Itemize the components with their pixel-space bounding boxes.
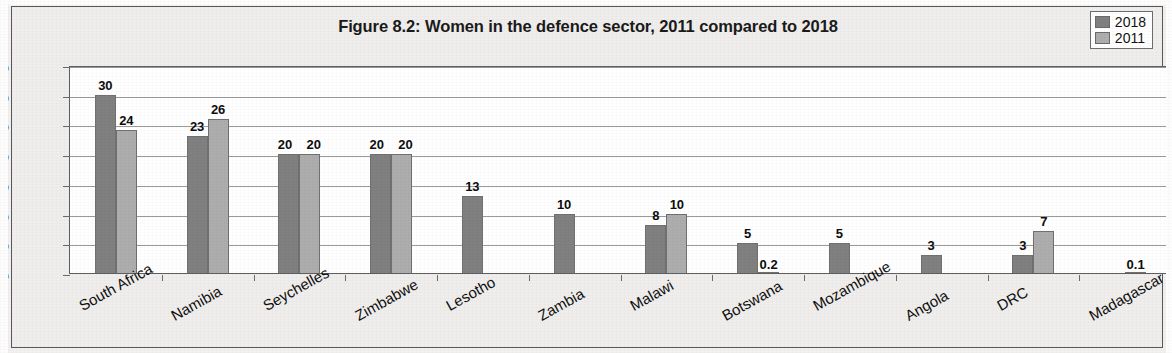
- bar-value-label: 20: [398, 138, 412, 151]
- y-tick-mark-5%: [63, 245, 70, 246]
- bar-value-label: 0.1: [1127, 258, 1145, 271]
- x-axis-category-label: Madagascar: [1086, 269, 1166, 324]
- bar-2011: 0.1: [1125, 272, 1146, 273]
- bar-2011: 26: [208, 119, 229, 274]
- bar-group: 2326: [162, 67, 254, 273]
- bar-2018: 20: [370, 154, 391, 273]
- y-tick-mark-20%: [63, 156, 70, 157]
- bar-group: 50.2: [712, 67, 804, 273]
- y-tick-mark-15%: [63, 186, 70, 187]
- bar-value-label: 5: [836, 227, 843, 240]
- bar-value-label: 3: [928, 239, 935, 252]
- bar-value-label: 20: [278, 138, 292, 151]
- bar-value-label: 8: [652, 209, 659, 222]
- bar-group: 5: [804, 67, 896, 273]
- page-margin-left: [0, 0, 8, 353]
- x-axis-category-label: Namibia: [168, 282, 224, 324]
- bar-2018: 3: [1012, 255, 1033, 273]
- y-tick-mark-10%: [63, 216, 70, 217]
- x-axis-category-label: DRC: [994, 283, 1031, 314]
- figure-container: Figure 8.2: Women in the defence sector,…: [0, 0, 1172, 353]
- bar-value-label: 7: [1040, 215, 1047, 228]
- bar-value-label: 20: [306, 138, 320, 151]
- legend-item-2018: 2018: [1095, 14, 1146, 30]
- bar-2011: 10: [666, 214, 687, 273]
- bar-2011: 7: [1033, 231, 1054, 273]
- chart-legend: 20182011: [1090, 11, 1153, 49]
- bar-group: 0.1: [1079, 67, 1171, 273]
- bar-value-label: 13: [465, 180, 479, 193]
- bar-group: 13: [437, 67, 529, 273]
- legend-swatch-icon-2018: [1095, 16, 1110, 28]
- page-margin-right: [1166, 0, 1172, 353]
- y-tick-mark-35%: [63, 67, 70, 68]
- bar-group: 37: [988, 67, 1080, 273]
- bar-2018: 13: [462, 196, 483, 273]
- bar-2018: 3: [921, 255, 942, 273]
- bar-2018: 23: [187, 136, 208, 273]
- bar-value-label: 3: [1019, 239, 1026, 252]
- bar-group: 10: [529, 67, 621, 273]
- bar-2018: 10: [554, 214, 575, 273]
- bar-value-label: 5: [744, 227, 751, 240]
- bar-group: 3: [896, 67, 988, 273]
- bar-2018: 5: [829, 243, 850, 273]
- x-axis-category-label: Zambia: [535, 285, 587, 324]
- bar-group: 2020: [254, 67, 346, 273]
- page-margin-top: [0, 0, 1172, 5]
- y-tick-mark-25%: [63, 126, 70, 127]
- bar-value-label: 20: [370, 138, 384, 151]
- bar-2011: 0.2: [758, 272, 779, 273]
- bar-2011: 20: [299, 154, 320, 273]
- bar-value-label: 26: [211, 103, 225, 116]
- bar-group: 3024: [70, 67, 162, 273]
- x-axis-category-label: Angola: [902, 286, 951, 324]
- bar-2018: 5: [737, 243, 758, 273]
- x-axis-category-label: Zimbabwe: [352, 275, 421, 323]
- bar-value-label: 0.2: [760, 258, 778, 271]
- bar-value-label: 10: [670, 198, 684, 211]
- y-tick-mark-30%: [63, 97, 70, 98]
- bar-group: 810: [621, 67, 713, 273]
- bar-2018: 8: [645, 225, 666, 273]
- bar-2011: 20: [391, 154, 412, 273]
- x-axis-category-label: Lesotho: [443, 273, 498, 314]
- x-axis-labels: South AfricaNamibiaSeychellesZimbabweLes…: [69, 275, 1170, 353]
- chart-title: Figure 8.2: Women in the defence sector,…: [12, 17, 1164, 36]
- bar-value-label: 30: [98, 79, 112, 92]
- chart-frame: Figure 8.2: Women in the defence sector,…: [11, 6, 1163, 348]
- bar-2018: 20: [278, 154, 299, 273]
- x-axis-category-label: Malawi: [627, 276, 676, 314]
- bar-series-container: 3024232620202020131081050.253370.1: [70, 67, 1169, 273]
- plot-area: 0%5%10%15%20%25%30%35% 30242326202020201…: [69, 66, 1170, 274]
- legend-swatch-icon-2011: [1095, 32, 1110, 44]
- legend-label-2011: 2011: [1115, 31, 1145, 45]
- bar-value-label: 24: [119, 114, 133, 127]
- bar-2011: 24: [116, 130, 137, 273]
- x-axis-category-label: Botswana: [719, 277, 785, 324]
- bar-value-label: 10: [557, 198, 571, 211]
- bar-value-label: 23: [190, 120, 204, 133]
- legend-label-2018: 2018: [1115, 15, 1146, 29]
- bar-group: 2020: [345, 67, 437, 273]
- bar-2018: 30: [95, 95, 116, 273]
- legend-item-2011: 2011: [1095, 30, 1146, 46]
